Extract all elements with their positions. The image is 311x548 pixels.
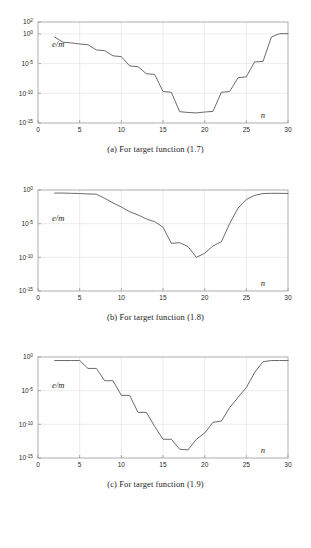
x-tick-label: 10	[118, 294, 126, 301]
caption-c: (c) For target function (1.9)	[0, 480, 311, 489]
data-series-line	[55, 361, 288, 450]
y-tick-label: 10-5	[21, 219, 33, 227]
x-tick-label: 20	[201, 126, 209, 133]
x-tick-label: 5	[78, 126, 82, 133]
y-tick-label: 10-10	[19, 420, 34, 428]
y-tick-label: 10-5	[21, 59, 33, 67]
x-tick-label: 30	[284, 461, 292, 468]
x-axis-label: n	[261, 278, 265, 288]
caption-a: (a) For target function (1.7)	[0, 145, 311, 154]
chart-c-canvas: 05101520253010010-510-1010-15e/mn	[0, 335, 311, 480]
x-axis-label: n	[261, 445, 265, 455]
x-tick-label: 15	[159, 294, 167, 301]
y-tick-label: 100	[23, 185, 33, 193]
y-tick-label: 10-10	[19, 253, 34, 261]
y-axis-label: e/m	[52, 39, 64, 49]
plot-c: 05101520253010010-510-1010-15e/mn	[0, 335, 311, 480]
x-tick-label: 5	[78, 461, 82, 468]
x-tick-label: 20	[201, 461, 209, 468]
figure-panel-a: 05101520253010210010-510-1010-15e/mn (a)…	[0, 0, 311, 154]
y-tick-label: 100	[23, 30, 33, 38]
data-series-line	[55, 193, 288, 257]
x-tick-label: 0	[36, 461, 40, 468]
x-tick-label: 25	[243, 126, 251, 133]
x-tick-label: 25	[243, 461, 251, 468]
y-tick-label: 102	[23, 18, 33, 26]
figure-panel-b: 05101520253010010-510-1010-15e/mn (b) Fo…	[0, 168, 311, 322]
chart-b-canvas: 05101520253010010-510-1010-15e/mn	[0, 168, 311, 313]
y-tick-label: 10-15	[19, 119, 34, 127]
x-tick-label: 10	[118, 461, 126, 468]
x-tick-label: 5	[78, 294, 82, 301]
x-tick-label: 20	[201, 294, 209, 301]
plot-b: 05101520253010010-510-1010-15e/mn	[0, 168, 311, 313]
chart-a-canvas: 05101520253010210010-510-1010-15e/mn	[0, 0, 311, 145]
x-tick-label: 30	[284, 294, 292, 301]
y-tick-label: 10-10	[19, 89, 34, 97]
x-tick-label: 15	[159, 461, 167, 468]
figure-page: 05101520253010210010-510-1010-15e/mn (a)…	[0, 0, 311, 548]
x-tick-label: 25	[243, 294, 251, 301]
x-tick-label: 10	[118, 126, 126, 133]
plot-a: 05101520253010210010-510-1010-15e/mn	[0, 0, 311, 145]
y-tick-label: 100	[23, 353, 33, 361]
y-axis-label: e/m	[52, 213, 64, 223]
y-axis-label: e/m	[52, 380, 64, 390]
y-tick-label: 10-15	[19, 286, 34, 294]
figure-panel-c: 05101520253010010-510-1010-15e/mn (c) Fo…	[0, 335, 311, 489]
data-series-line	[55, 34, 288, 113]
x-tick-label: 0	[36, 126, 40, 133]
x-tick-label: 15	[159, 126, 167, 133]
y-tick-label: 10-5	[21, 386, 33, 394]
x-axis-label: n	[261, 110, 265, 120]
y-tick-label: 10-15	[19, 454, 34, 462]
x-tick-label: 0	[36, 294, 40, 301]
x-tick-label: 30	[284, 126, 292, 133]
caption-b: (b) For target function (1.8)	[0, 313, 311, 322]
